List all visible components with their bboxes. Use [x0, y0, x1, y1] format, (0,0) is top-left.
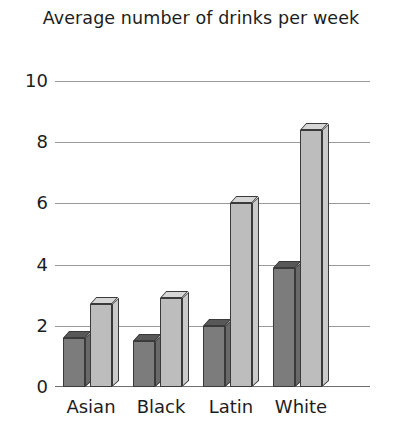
y-tick-label-6: 6 — [14, 194, 48, 212]
bar-side — [112, 298, 119, 387]
plot-area — [55, 81, 370, 387]
bar-face — [273, 268, 295, 387]
bar-face — [90, 304, 112, 387]
x-tick-label-asian: Asian — [55, 396, 127, 418]
x-tick-label-latin: Latin — [195, 396, 267, 418]
bar-white-series-2 — [300, 130, 322, 387]
bar-face — [133, 341, 155, 387]
y-tick-label-0: 0 — [14, 378, 48, 396]
bar-white-series-1 — [273, 268, 295, 387]
gridline-10 — [55, 81, 370, 82]
y-tick-label-10: 10 — [14, 72, 48, 90]
bar-chart: Average number of drinks per week 10 8 6… — [0, 0, 402, 433]
bar-latin-series-2 — [230, 203, 252, 387]
bar-side — [182, 292, 189, 387]
bar-face — [160, 298, 182, 387]
bar-asian-series-1 — [63, 338, 85, 387]
y-tick-label-8: 8 — [14, 133, 48, 151]
bar-face — [300, 130, 322, 387]
bar-asian-series-2 — [90, 304, 112, 387]
bar-side — [322, 124, 329, 387]
bar-latin-series-1 — [203, 326, 225, 387]
y-tick-label-2: 2 — [14, 317, 48, 335]
x-tick-label-black: Black — [125, 396, 197, 418]
y-tick-label-4: 4 — [14, 256, 48, 274]
x-axis: Asian Black Latin White — [55, 396, 385, 426]
y-axis: 10 8 6 4 2 0 — [8, 81, 48, 387]
x-tick-label-white: White — [265, 396, 337, 418]
bar-black-series-2 — [160, 298, 182, 387]
bar-black-series-1 — [133, 341, 155, 387]
bar-side — [252, 197, 259, 387]
bar-face — [230, 203, 252, 387]
bar-face — [63, 338, 85, 387]
chart-title: Average number of drinks per week — [0, 8, 402, 28]
bar-face — [203, 326, 225, 387]
